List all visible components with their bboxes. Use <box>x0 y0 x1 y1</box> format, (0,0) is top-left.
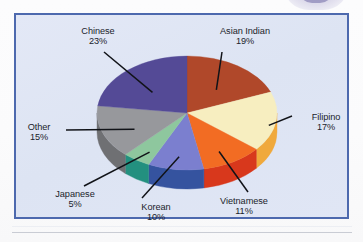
slice-label-korean-name: Korean <box>128 202 184 212</box>
slice-label-korean: Korean 10% <box>128 202 184 223</box>
page-rule <box>12 232 352 233</box>
slice-label-japanese-value: 5% <box>42 199 108 209</box>
slice-label-japanese: Japanese 5% <box>42 189 108 210</box>
slice-label-other-value: 15% <box>14 132 64 142</box>
page-rule-light <box>12 226 352 227</box>
slice-label-korean-value: 10% <box>128 212 184 222</box>
slice-label-japanese-name: Japanese <box>42 189 108 199</box>
pie-slices <box>97 56 277 170</box>
slice-label-asian-indian: Asian Indian 19% <box>198 26 292 47</box>
slice-label-vietnamese-value: 11% <box>206 206 282 216</box>
slice-label-vietnamese-name: Vietnamese <box>206 196 282 206</box>
slice-label-vietnamese: Vietnamese 11% <box>206 196 282 217</box>
slice-label-other-name: Other <box>14 122 64 132</box>
slice-label-filipino-name: Filipino <box>300 112 352 122</box>
slice-label-chinese-name: Chinese <box>62 26 134 36</box>
slice-label-filipino: Filipino 17% <box>300 112 352 133</box>
slice-label-other: Other 15% <box>14 122 64 143</box>
slice-label-asian-indian-name: Asian Indian <box>198 26 292 36</box>
slice-label-asian-indian-value: 19% <box>198 36 292 46</box>
slice-label-chinese-value: 23% <box>62 36 134 46</box>
slice-label-filipino-value: 17% <box>300 122 352 132</box>
slice-label-chinese: Chinese 23% <box>62 26 134 47</box>
leader-line-other <box>66 129 134 130</box>
